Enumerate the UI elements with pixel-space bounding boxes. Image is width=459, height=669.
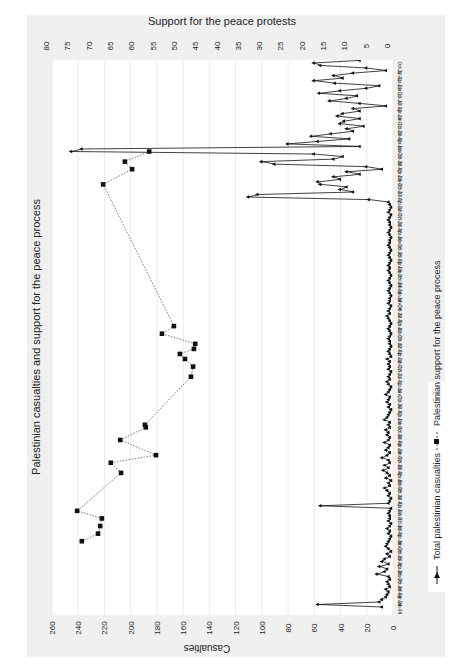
square-marker-icon	[118, 438, 123, 443]
plot-area	[52, 60, 393, 615]
date-tick-label: Oct-11	[397, 61, 402, 75]
square-marker-icon	[193, 342, 198, 347]
square-marker-icon	[130, 167, 135, 172]
triangle-marker-icon	[373, 0, 377, 4]
support-tick-label: 70	[85, 41, 94, 50]
square-marker-icon	[98, 524, 103, 529]
support-axis-label: Support for the peace protests	[148, 15, 296, 27]
square-marker-icon	[96, 531, 101, 536]
support-tick-label: 80	[42, 41, 51, 50]
casualties-tick-label: 60	[310, 623, 319, 632]
square-marker-icon	[100, 516, 105, 521]
support-tick-label: 0	[383, 43, 392, 48]
square-marker-icon	[75, 509, 80, 514]
casualties-tick-label: 40	[337, 623, 346, 632]
square-marker-icon	[178, 352, 183, 357]
triangle-marker-icon	[377, 5, 381, 9]
support-tick-label: 60	[127, 41, 136, 50]
square-marker-icon	[183, 357, 188, 362]
square-marker-icon	[80, 539, 85, 544]
casualties-tick-label: 180	[153, 621, 162, 635]
casualties-tick-label: 140	[205, 621, 214, 635]
square-marker-icon	[154, 453, 159, 458]
legend-label-support: Palestinian support for the peace proces…	[432, 260, 442, 426]
support-tick-label: 20	[298, 41, 307, 50]
square-marker-icon	[189, 374, 194, 379]
triangle-marker-icon	[357, 0, 361, 1]
support-tick-label: 15	[319, 41, 328, 50]
casualties-tick-label: 200	[127, 621, 136, 635]
support-tick-label: 55	[149, 41, 158, 50]
casualties-tick-label: 260	[48, 621, 57, 635]
square-marker-icon	[143, 423, 148, 428]
casualties-axis-label: Casualties	[184, 643, 231, 654]
triangle-marker-icon	[377, 11, 381, 15]
square-marker-icon	[109, 460, 114, 465]
support-tick-label: 25	[276, 41, 285, 50]
legend-label-casualties: Total palestinian casualties	[432, 452, 442, 560]
chart-canvas: 05101520253035404550556065707580 0204060…	[0, 0, 459, 669]
square-marker-icon	[123, 159, 128, 164]
chart-title: Palestinian casualties and support for t…	[30, 199, 42, 475]
support-tick-label: 40	[213, 41, 222, 50]
square-marker-icon	[172, 324, 177, 329]
casualties-tick-label: 0	[389, 625, 398, 630]
square-marker-icon	[119, 471, 124, 476]
support-tick-label: 75	[63, 41, 72, 50]
support-tick-label: 45	[191, 41, 200, 50]
casualties-tick-label: 20	[363, 623, 372, 632]
square-marker-icon	[101, 182, 106, 187]
casualties-tick-label: 240	[74, 621, 83, 635]
casualties-tick-label: 80	[284, 623, 293, 632]
chart: 05101520253035404550556065707580 0204060…	[0, 0, 459, 669]
support-tick-label: 5	[362, 43, 371, 48]
square-marker-icon	[147, 149, 152, 154]
support-tick-label: 35	[234, 41, 243, 50]
support-tick-label: 30	[255, 41, 264, 50]
triangle-marker-icon	[370, 8, 374, 12]
support-tick-label: 65	[106, 41, 115, 50]
square-marker-icon	[160, 331, 165, 336]
square-marker-icon	[191, 364, 196, 369]
square-marker-icon	[192, 347, 197, 352]
casualties-tick-label: 220	[100, 621, 109, 635]
date-axis-ticks: Jan-94Apr-94Jul-94Oct-94Jan-95Apr-95Jul-…	[397, 61, 402, 614]
casualties-tick-label: 100	[258, 621, 267, 635]
support-tick-label: 10	[340, 41, 349, 50]
casualties-tick-label: 160	[179, 621, 188, 635]
support-tick-label: 50	[170, 41, 179, 50]
square-marker-icon	[434, 439, 439, 444]
triangle-marker-icon	[364, 3, 368, 7]
casualties-tick-label: 120	[232, 621, 241, 635]
